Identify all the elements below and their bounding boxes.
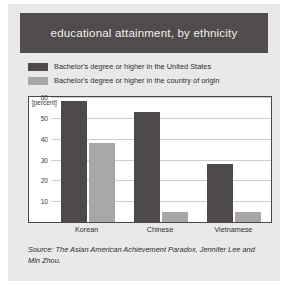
legend-swatch-united-states — [28, 63, 48, 71]
y-axis-tick-label: 20 — [41, 177, 48, 184]
legend-swatch-country-of-origin — [28, 77, 48, 85]
bar-vietnamese-series-2 — [235, 212, 261, 222]
x-axis-label-korean: Korean — [75, 225, 98, 234]
x-axis-label-chinese: Chinese — [147, 225, 173, 234]
y-axis-unit-label: [percent] — [32, 99, 57, 106]
page-title: educational attainment, by ethnicity — [51, 27, 238, 39]
plot-area: 102030405060 [percent] — [28, 96, 272, 223]
y-axis-tick-label: 30 — [41, 156, 48, 163]
chart-title-banner: educational attainment, by ethnicity — [20, 13, 268, 53]
y-axis: 102030405060 — [29, 97, 51, 222]
bar-vietnamese-series-1 — [207, 164, 233, 222]
bar-chinese-series-2 — [162, 212, 188, 222]
bar-chinese-series-1 — [134, 112, 160, 222]
y-axis-tick-label: 40 — [41, 135, 48, 142]
legend-item: Bachelor's degree or higher in the count… — [28, 74, 272, 87]
legend-label: Bachelor's degree or higher in the Unite… — [54, 62, 211, 71]
x-axis-label-vietnamese: Vietnamese — [214, 225, 252, 234]
y-axis-tick-label: 10 — [41, 198, 48, 205]
source-caption: Source: The Asian American Achievement P… — [28, 244, 268, 267]
y-axis-tick-label: 50 — [41, 114, 48, 121]
legend-item: Bachelor's degree or higher in the Unite… — [28, 60, 272, 73]
gridline — [51, 97, 271, 98]
bar-korean-series-2 — [89, 143, 115, 222]
bar-korean-series-1 — [61, 101, 87, 222]
x-axis: KoreanChineseVietnamese — [50, 225, 272, 237]
plot-grid — [51, 97, 271, 222]
legend-label: Bachelor's degree or higher in the count… — [54, 76, 219, 85]
figure-container: educational attainment, by ethnicity Bac… — [8, 4, 280, 281]
chart-legend: Bachelor's degree or higher in the Unite… — [28, 60, 272, 88]
